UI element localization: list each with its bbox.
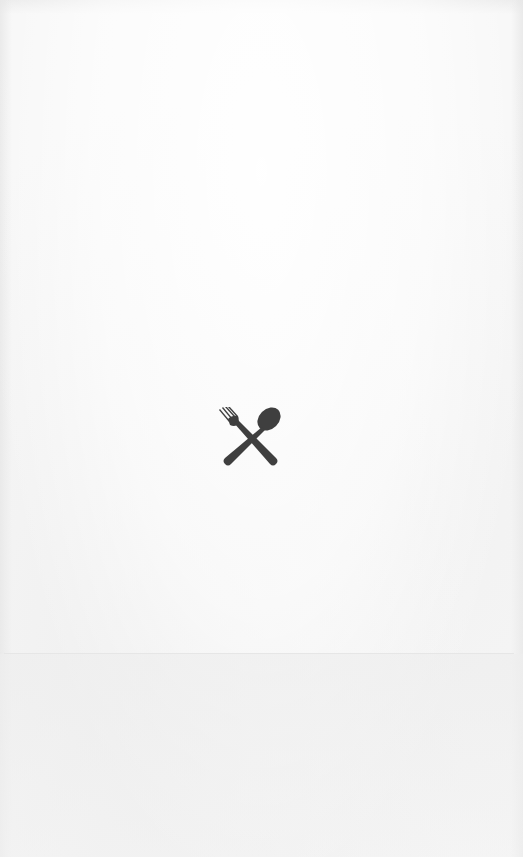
- bottom-band: [0, 654, 523, 857]
- fork-and-spoon-crossed-icon: [218, 407, 284, 467]
- divider: [4, 653, 514, 654]
- splash-screen: [0, 0, 523, 857]
- app-logo: [218, 407, 284, 467]
